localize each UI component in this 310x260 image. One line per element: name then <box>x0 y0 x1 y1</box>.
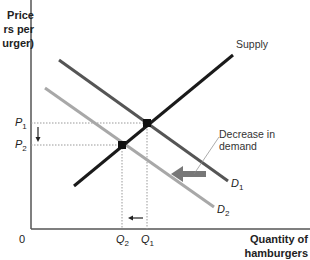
q1-label: Q1 <box>141 233 154 248</box>
price-down-arrow-head <box>36 137 41 142</box>
supply-label: Supply <box>236 38 268 50</box>
q2-label: Q2 <box>116 233 129 248</box>
origin-label: 0 <box>19 233 25 245</box>
demand-curve-d2 <box>45 88 214 207</box>
d1-label: D1 <box>231 177 243 192</box>
decrease-in-demand-label: Decrease in demand <box>219 128 310 152</box>
p2-label: P2 <box>15 138 27 153</box>
d2-label: D2 <box>217 203 229 218</box>
equilibrium-point-1 <box>143 119 151 127</box>
equilibrium-point-2 <box>118 141 126 149</box>
x-axis-label: Quantity of hamburgers <box>244 232 308 260</box>
leader-line <box>194 137 219 174</box>
quantity-left-arrow-head <box>128 216 133 221</box>
p1-label: P1 <box>15 116 27 131</box>
y-axis-label: Price rs per urger) <box>0 8 34 50</box>
